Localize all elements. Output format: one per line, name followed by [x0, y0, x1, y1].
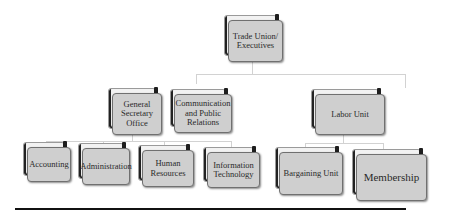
node-label: Communication and Public Relations — [174, 94, 232, 133]
connector-level2-right-bar — [305, 143, 383, 144]
node-label: Labor Unit — [315, 94, 385, 135]
node-trade-union-executives[interactable]: Trade Union/ Executives — [224, 15, 283, 62]
connector-labor-down — [343, 134, 344, 143]
node-membership[interactable]: Membership — [352, 149, 427, 201]
connector-to-communication — [196, 74, 197, 84]
node-accounting[interactable]: Accounting — [23, 142, 71, 182]
node-label: Information Technology — [207, 152, 260, 188]
node-bargaining-unit[interactable]: Bargaining Unit — [275, 147, 343, 195]
node-label: Membership — [356, 154, 427, 201]
node-administration[interactable]: Administration — [78, 143, 130, 185]
node-label: Human Resources — [142, 150, 194, 187]
node-information-technology[interactable]: Information Technology — [203, 147, 260, 188]
connector-level2-left-bar — [46, 141, 232, 142]
org-chart: Trade Union/ Executives General Secretar… — [0, 0, 452, 220]
node-label: Trade Union/ Executives — [228, 20, 283, 62]
bottom-rule-divider — [15, 208, 406, 210]
connector-level1-bar — [196, 74, 405, 75]
node-label: Administration — [82, 148, 130, 185]
node-communication-public-relations[interactable]: Communication and Public Relations — [170, 89, 232, 133]
connector-to-labor — [405, 74, 406, 88]
node-label: General Secretary Office — [112, 93, 162, 135]
connector-root-down — [252, 60, 253, 74]
node-label: Bargaining Unit — [279, 152, 343, 195]
node-labor-unit[interactable]: Labor Unit — [311, 89, 385, 135]
node-label: Accounting — [27, 147, 71, 182]
node-human-resources[interactable]: Human Resources — [138, 145, 194, 187]
node-general-secretary-office[interactable]: General Secretary Office — [108, 88, 162, 135]
